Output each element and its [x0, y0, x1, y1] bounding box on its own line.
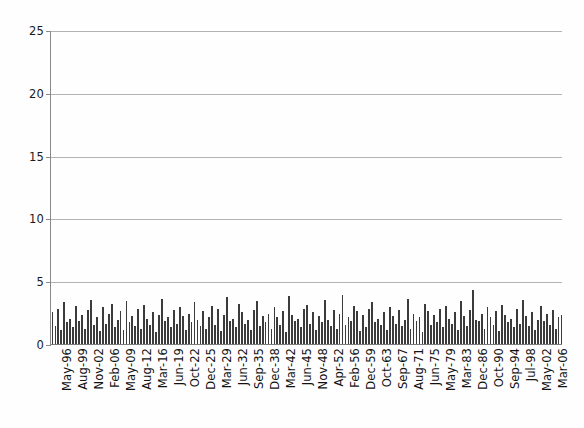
bar: [493, 325, 495, 345]
bar: [439, 309, 441, 345]
x-axis-tick-label: Jun-45: [300, 348, 314, 385]
bar: [105, 324, 107, 345]
x-axis-tick-label: Mar-42: [284, 348, 298, 388]
bar: [510, 319, 512, 345]
bar: [179, 307, 181, 345]
bar: [466, 326, 468, 345]
bar: [484, 329, 486, 345]
x-axis-tick-label: Mar-16: [156, 348, 170, 388]
bar: [126, 301, 128, 345]
bar: [259, 326, 261, 345]
x-axis-tick-label: Dec-25: [204, 348, 218, 390]
bar: [111, 304, 113, 345]
bar: [194, 302, 196, 345]
bar: [288, 296, 290, 345]
bar: [339, 314, 341, 345]
bar: [336, 329, 338, 345]
bar: [253, 310, 255, 345]
bar: [487, 307, 489, 345]
bar: [350, 321, 352, 345]
bar: [75, 306, 77, 345]
bar: [247, 320, 249, 345]
bar: [558, 317, 560, 345]
bar: [90, 300, 92, 345]
bar: [348, 317, 350, 345]
bar: [516, 309, 518, 345]
bar: [424, 304, 426, 345]
bar: [143, 305, 145, 345]
bar: [333, 310, 335, 345]
bar: [383, 312, 385, 345]
bar: [137, 309, 139, 345]
bar: [312, 312, 314, 345]
x-axis-tick-label: Dec-86: [476, 348, 490, 390]
bar: [205, 329, 207, 345]
y-axis-tick-label: 5: [36, 275, 44, 289]
bar: [265, 322, 267, 345]
bar: [451, 324, 453, 345]
bar: [84, 329, 86, 345]
bar: [271, 329, 273, 345]
bar: [164, 321, 166, 345]
x-axis-tick-label: Dec-59: [364, 348, 378, 390]
bar: [223, 315, 225, 345]
x-axis-tick-label: Jun-19: [172, 348, 186, 385]
bar: [232, 319, 234, 345]
bar: [173, 310, 175, 345]
bar: [282, 311, 284, 345]
bar: [478, 321, 480, 345]
x-axis-tick-label: Feb-06: [108, 348, 122, 388]
plot-area: [50, 31, 562, 345]
bar: [528, 326, 530, 345]
bar: [513, 327, 515, 345]
bar: [114, 327, 116, 345]
x-axis: May-96Aug-99Nov-02Feb-06May-09Aug-12Mar-…: [50, 348, 562, 426]
bar: [531, 312, 533, 345]
bar: [149, 325, 151, 345]
bar: [534, 330, 536, 345]
bar: [63, 302, 65, 345]
bar: [66, 322, 68, 345]
bar: [386, 330, 388, 345]
bar: [250, 330, 252, 345]
x-axis-tick-label: Mar-83: [460, 348, 474, 388]
x-axis-tick-label: May-02: [540, 348, 554, 391]
bar: [306, 305, 308, 345]
bar: [309, 324, 311, 345]
bar: [279, 325, 281, 345]
bar: [504, 315, 506, 345]
bar: [540, 306, 542, 345]
bar: [546, 314, 548, 345]
bar: [392, 316, 394, 345]
bar: [454, 312, 456, 345]
bar: [365, 327, 367, 345]
bar: [262, 316, 264, 345]
bar-chart: 0510152025 May-96Aug-99Nov-02Feb-06May-0…: [0, 0, 584, 428]
bar: [442, 327, 444, 345]
bar: [146, 319, 148, 345]
bar: [377, 319, 379, 345]
bar: [330, 326, 332, 345]
bar: [549, 325, 551, 345]
bar: [353, 306, 355, 345]
bar: [519, 324, 521, 345]
bar: [96, 317, 98, 345]
bar: [401, 326, 403, 345]
x-axis-tick-label: Jun-75: [428, 348, 442, 385]
bar: [229, 321, 231, 345]
bar: [202, 311, 204, 345]
bar: [161, 299, 163, 345]
bar: [380, 325, 382, 345]
bar: [170, 327, 172, 345]
bar: [398, 310, 400, 345]
bar: [495, 311, 497, 345]
x-axis-tick-label: Dec-38: [268, 348, 282, 390]
bar: [448, 319, 450, 345]
bar: [123, 330, 125, 345]
x-axis-tick-label: Oct-90: [492, 348, 506, 387]
bar: [102, 307, 104, 345]
y-axis-tick-label: 0: [36, 338, 44, 352]
bar: [140, 329, 142, 345]
bar: [460, 301, 462, 345]
bar: [395, 324, 397, 345]
